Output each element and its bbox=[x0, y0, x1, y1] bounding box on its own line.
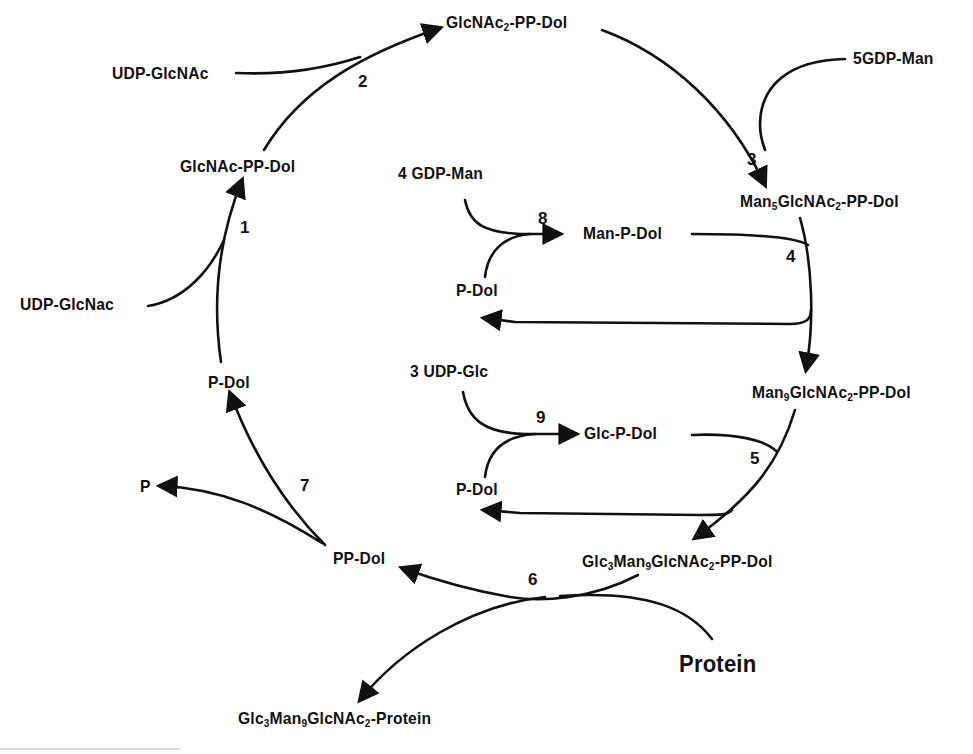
label-udp-glcnac-top: UDP-GlcNAc bbox=[112, 65, 209, 82]
step-number-6: 6 bbox=[528, 571, 537, 588]
step-number-3: 3 bbox=[747, 151, 756, 168]
arrow-3udp-glc-to-glc-p-dol bbox=[463, 392, 576, 434]
label-3-udp-glc: 3 UDP-Glc bbox=[410, 363, 488, 380]
arrow-step-1-main bbox=[217, 180, 242, 362]
label-glc-p-dol: Glc-P-Dol bbox=[584, 425, 657, 442]
label-glcnac-pp-dol: GlcNAc-PP-Dol bbox=[180, 158, 295, 175]
arrow-p-dol-into-9 bbox=[485, 434, 535, 477]
step-number-4: 4 bbox=[786, 248, 795, 265]
label-p-dol-left: P-Dol bbox=[208, 374, 250, 391]
label-udp-glcnac-left: UDP-GlcNac bbox=[20, 296, 114, 313]
label-man-p-dol: Man-P-Dol bbox=[583, 225, 662, 242]
arrow-udp-glcnac-left-input bbox=[148, 240, 224, 306]
label-man5-glcnac2-pp-dol: Man5GlcNAc2-PP-Dol bbox=[740, 193, 899, 210]
label-p: P bbox=[140, 478, 151, 495]
label-5gdp-man: 5GDP-Man bbox=[853, 50, 934, 67]
label-glc3-man9-glcnac2-pp-dol: Glc3Man9GlcNAc2-PP-Dol bbox=[582, 553, 772, 570]
arrow-p-dol-into-8 bbox=[485, 234, 530, 277]
label-p-dol-inner-bottom: P-Dol bbox=[456, 481, 498, 498]
arrow-step-5-main bbox=[695, 410, 795, 538]
arrow-5-to-p-dol bbox=[484, 510, 732, 515]
arrow-5gdp-man-input bbox=[760, 59, 845, 150]
arrow-step-2-main bbox=[264, 28, 440, 150]
label-p-dol-inner-top: P-Dol bbox=[456, 282, 498, 299]
label-protein: Protein bbox=[679, 652, 756, 676]
step-number-7: 7 bbox=[300, 477, 309, 494]
label-glc3-man9-glcnac2-protein: Glc3Man9GlcNAc2-Protein bbox=[238, 710, 431, 727]
label-glcnac2-pp-dol: GlcNAc2-PP-Dol bbox=[446, 14, 567, 31]
label-4-gdp-man: 4 GDP-Man bbox=[398, 165, 483, 182]
step-number-8: 8 bbox=[538, 210, 547, 227]
caption-fragment-rule bbox=[0, 748, 180, 750]
arrow-6-to-glycoprotein bbox=[360, 597, 545, 700]
arrow-step-7-main bbox=[230, 393, 325, 545]
step-number-5: 5 bbox=[750, 450, 759, 467]
label-man9-glcnac2-pp-dol: Man9GlcNAc2-PP-Dol bbox=[752, 384, 911, 401]
arrow-4-to-p-dol bbox=[484, 310, 811, 324]
arrow-glc-p-dol-into-5 bbox=[692, 435, 776, 451]
arrow-man-p-dol-into-4 bbox=[692, 234, 808, 245]
arrow-protein-into-6 bbox=[560, 595, 712, 639]
arrow-udp-glcnac-top-input bbox=[236, 57, 360, 73]
arrow-step-3-main bbox=[602, 30, 765, 185]
step-number-9: 9 bbox=[536, 409, 545, 426]
step-number-1: 1 bbox=[240, 219, 249, 236]
step-number-2: 2 bbox=[358, 73, 367, 90]
label-pp-dol: PP-Dol bbox=[333, 550, 385, 567]
